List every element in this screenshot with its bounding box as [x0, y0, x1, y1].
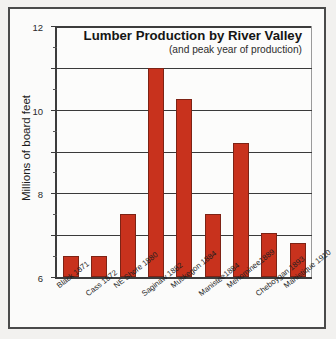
y-axis-title: Millions of board feet — [20, 48, 32, 248]
bar[interactable] — [205, 214, 221, 277]
bar-chart: Millions of board feet 24681012 Lumber P… — [0, 0, 336, 339]
bar-slot — [57, 26, 85, 277]
x-axis-labels: Black 1871Cass 1872NE Shore 1880Saginaw … — [55, 279, 310, 337]
y-tick-label: 12 — [32, 22, 43, 33]
y-tick-mark — [51, 277, 57, 278]
bar-slot — [199, 26, 227, 277]
bar-slot — [114, 26, 142, 277]
chart-page: Millions of board feet 24681012 Lumber P… — [0, 0, 336, 339]
bar-slot — [255, 26, 283, 277]
plot-area: 24681012 — [55, 26, 312, 279]
bar[interactable] — [176, 99, 192, 277]
bar[interactable] — [233, 143, 249, 277]
bar-series — [57, 26, 312, 277]
y-tick-label: 10 — [32, 105, 43, 116]
bar-slot — [227, 26, 255, 277]
chart-subtitle: (and peak year of production) — [60, 43, 302, 56]
bar-slot — [284, 26, 312, 277]
title-block: Lumber Production by River Valley (and p… — [60, 28, 306, 56]
y-tick-label: 6 — [38, 273, 43, 284]
bar-slot — [170, 26, 198, 277]
y-tick-label: 8 — [38, 189, 43, 200]
bar-slot — [85, 26, 113, 277]
bar[interactable] — [148, 68, 164, 277]
chart-title: Lumber Production by River Valley — [60, 28, 302, 43]
bar-slot — [142, 26, 170, 277]
